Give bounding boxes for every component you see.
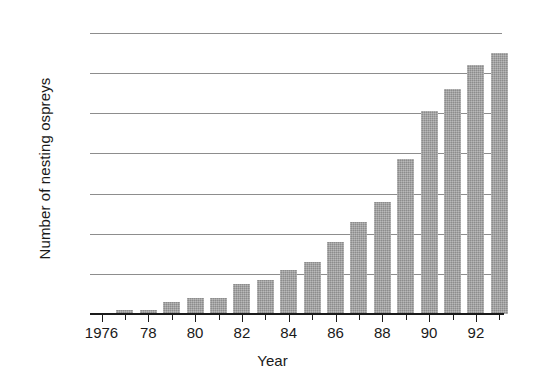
x-tick-label: 92	[446, 324, 506, 341]
osprey-nesting-bar-chart: Number of nesting ospreys 01020304050607…	[0, 0, 545, 388]
x-tick	[102, 315, 103, 322]
bar	[491, 53, 508, 314]
x-tick	[476, 315, 477, 322]
bar	[374, 202, 391, 314]
x-tick-minor	[125, 315, 126, 320]
x-tick-minor	[312, 315, 313, 320]
x-tick-minor	[172, 315, 173, 320]
x-tick-minor	[406, 315, 407, 320]
x-tick	[289, 315, 290, 322]
gridline	[90, 234, 502, 235]
plot-area: 010203040506070	[90, 33, 502, 314]
bar	[421, 111, 438, 314]
bar	[233, 284, 250, 314]
y-axis-title: Number of nesting ospreys	[36, 29, 53, 309]
x-axis-title: Year	[0, 352, 545, 369]
x-tick-minor	[453, 315, 454, 320]
x-tick	[148, 315, 149, 322]
bar	[467, 65, 484, 314]
bar	[350, 222, 367, 314]
x-tick	[429, 315, 430, 322]
bar	[187, 298, 204, 314]
x-tick-minor	[265, 315, 266, 320]
bar	[397, 159, 414, 314]
x-tick	[242, 315, 243, 322]
bar	[304, 262, 321, 314]
gridline	[90, 113, 502, 114]
bar	[280, 270, 297, 314]
x-tick-minor	[219, 315, 220, 320]
bar	[327, 242, 344, 314]
x-tick	[195, 315, 196, 322]
bar	[210, 298, 227, 314]
x-tick-minor	[359, 315, 360, 320]
gridline	[90, 73, 502, 74]
x-axis-line	[90, 313, 504, 315]
gridline	[90, 33, 502, 34]
x-tick	[382, 315, 383, 322]
x-tick	[336, 315, 337, 322]
bar	[444, 89, 461, 314]
gridline	[90, 153, 502, 154]
gridline	[90, 194, 502, 195]
x-tick-minor	[499, 315, 500, 320]
bar	[257, 280, 274, 314]
